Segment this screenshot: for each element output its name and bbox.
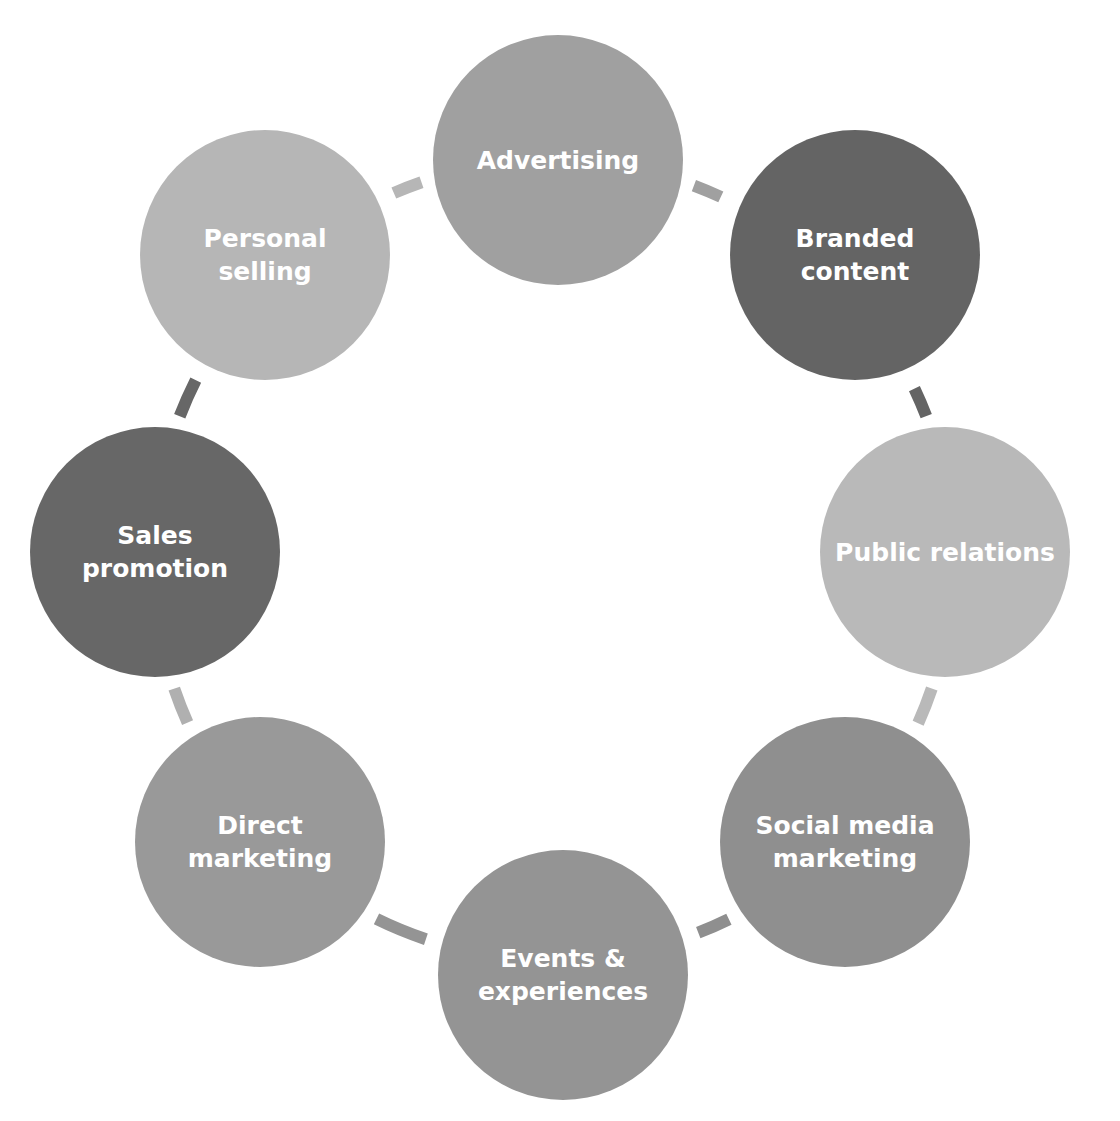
- node-label: Social media marketing: [755, 809, 934, 875]
- connector-arc: [914, 389, 926, 417]
- node-public-relations: Public relations: [820, 427, 1070, 677]
- node-events-experiences: Events & experiences: [438, 850, 688, 1100]
- node-advertising: Advertising: [433, 35, 683, 285]
- node-branded-content: Branded content: [730, 130, 980, 380]
- connector-arc: [376, 919, 425, 939]
- node-social-media-marketing: Social media marketing: [720, 717, 970, 967]
- node-direct-marketing: Direct marketing: [135, 717, 385, 967]
- node-label: Branded content: [796, 222, 915, 288]
- node-label: Advertising: [477, 144, 640, 177]
- connector-arc: [394, 182, 422, 193]
- connector-arc: [918, 689, 932, 724]
- node-personal-selling: Personal selling: [140, 130, 390, 380]
- node-label: Personal selling: [204, 222, 327, 288]
- node-label: Events & experiences: [478, 942, 648, 1008]
- connector-arc: [180, 380, 196, 416]
- node-label: Direct marketing: [188, 809, 332, 875]
- node-label: Public relations: [835, 536, 1055, 569]
- node-sales-promotion: Sales promotion: [30, 427, 280, 677]
- connector-arc: [694, 186, 721, 197]
- node-label: Sales promotion: [82, 519, 228, 585]
- connector-arc: [698, 919, 729, 932]
- connector-arc: [174, 689, 187, 723]
